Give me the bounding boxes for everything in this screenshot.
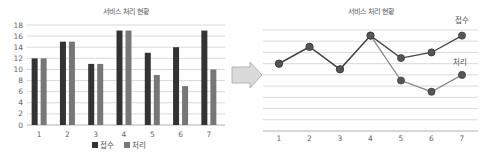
chart-canvas: 서비스 처리 현황 024681012141618 1234567 접수 처리 … (0, 0, 486, 156)
x-tick-label: 1 (277, 134, 282, 143)
line-label-처리: 처리 (453, 58, 467, 67)
x-tick-label: 7 (460, 134, 465, 143)
legend-swatch-처리 (124, 142, 130, 148)
bar-chart-legend: 접수 처리 (92, 141, 146, 150)
y-tick-label: 18 (13, 21, 23, 30)
point-접수-5 (397, 54, 404, 61)
x-tick-label: 4 (368, 134, 373, 143)
line-label-접수: 접수 (455, 16, 469, 25)
y-tick-label: 10 (13, 65, 23, 74)
bar-처리-3 (97, 64, 103, 125)
bar-chart: 서비스 처리 현황 024681012141618 1234567 접수 처리 (13, 7, 225, 150)
point-처리-7 (458, 71, 465, 78)
bar-처리-4 (126, 31, 132, 125)
bar-접수-2 (60, 42, 66, 125)
y-tick-label: 16 (13, 32, 23, 41)
bar-chart-title: 서비스 처리 현황 (103, 7, 150, 16)
x-tick-label: 4 (122, 130, 127, 139)
x-tick-label: 1 (37, 130, 42, 139)
bar-처리-1 (41, 58, 47, 125)
legend-label-접수: 접수 (100, 141, 114, 150)
x-tick-label: 7 (206, 130, 211, 139)
x-tick-label: 6 (429, 134, 434, 143)
bar-접수-3 (88, 64, 94, 125)
y-tick-label: 2 (18, 109, 23, 118)
x-tick-label: 3 (93, 130, 98, 139)
bar-접수-5 (145, 53, 151, 125)
legend-label-처리: 처리 (132, 141, 146, 150)
bar-처리-6 (182, 86, 188, 125)
y-tick-label: 14 (13, 43, 23, 52)
right-arrow-icon (232, 62, 262, 88)
bar-접수-6 (173, 47, 179, 125)
point-접수-4 (367, 32, 374, 39)
point-접수-3 (336, 66, 343, 73)
point-접수-2 (306, 43, 313, 50)
y-tick-label: 4 (18, 98, 23, 107)
line-chart-title: 서비스 처리 현황 (348, 7, 395, 16)
x-tick-label: 5 (399, 134, 404, 143)
x-tick-label: 6 (178, 130, 183, 139)
bar-처리-7 (210, 69, 216, 125)
bar-접수-1 (32, 58, 38, 125)
bar-접수-4 (117, 31, 123, 125)
x-tick-label: 2 (307, 134, 312, 143)
point-접수-1 (275, 60, 282, 67)
bar-처리-2 (69, 42, 75, 125)
point-접수-7 (458, 32, 465, 39)
x-tick-label: 2 (65, 130, 70, 139)
bar-처리-5 (154, 75, 160, 125)
y-tick-label: 0 (18, 121, 23, 130)
point-처리-6 (428, 88, 435, 95)
bar-접수-7 (201, 31, 207, 125)
point-처리-5 (397, 77, 404, 84)
x-tick-label: 3 (338, 134, 343, 143)
line-chart: 서비스 처리 현황 1234567 접수 처리 (263, 7, 478, 143)
point-접수-6 (428, 49, 435, 56)
legend-swatch-접수 (92, 142, 98, 148)
y-tick-label: 8 (18, 76, 23, 85)
x-tick-label: 5 (150, 130, 155, 139)
y-tick-label: 12 (13, 54, 23, 63)
y-tick-label: 6 (18, 87, 23, 96)
